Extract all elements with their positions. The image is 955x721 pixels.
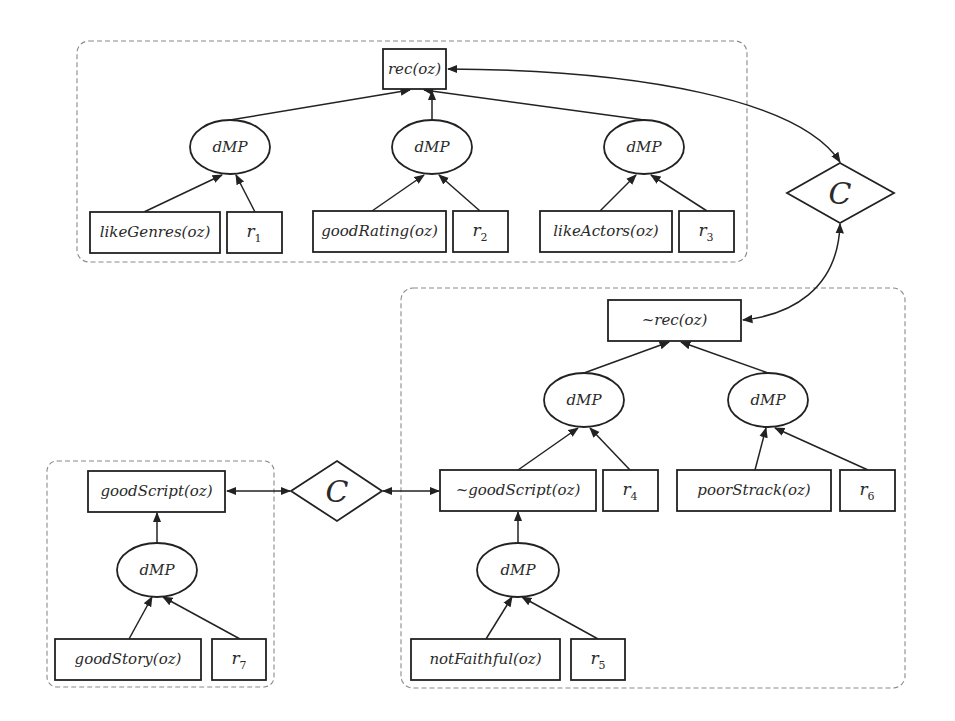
dmp-label: dMP (626, 138, 662, 156)
dmp-node[interactable]: dMP (117, 543, 197, 597)
dmp-node[interactable]: dMP (604, 120, 684, 174)
premise-node-poor-strack[interactable]: poorStrack(oz) (677, 470, 831, 511)
dmp-label: dMP (414, 138, 450, 156)
argumentation-diagram: rec(oz) dMP dMP dMP likeGenres(oz) r1 go… (0, 0, 955, 721)
node-good-script-label: goodScript(oz) (100, 482, 212, 500)
premise-label: goodRating(oz) (321, 222, 438, 240)
weight-node-r4[interactable]: r4 (603, 470, 658, 511)
dmp-node[interactable]: dMP (392, 120, 472, 174)
premise-node-like-genres[interactable]: likeGenres(oz) (90, 212, 220, 253)
dmp-label: dMP (750, 391, 786, 409)
premise-label: ~goodScript(oz) (456, 481, 581, 499)
conflict-label: C (326, 474, 349, 509)
weight-node-r2[interactable]: r2 (453, 211, 508, 252)
premise-label: poorStrack(oz) (697, 481, 811, 499)
dmp-node[interactable]: dMP (728, 373, 808, 427)
dmp-label: dMP (500, 561, 536, 579)
dmp-node[interactable]: dMP (190, 120, 270, 174)
premise-label: notFaithful(oz) (429, 650, 541, 668)
premise-node-good-rating[interactable]: goodRating(oz) (313, 211, 446, 252)
dmp-label: dMP (139, 561, 175, 579)
weight-node-r3[interactable]: r3 (679, 211, 734, 252)
premise-node-not-good-script[interactable]: ~goodScript(oz) (440, 470, 596, 511)
dmp-label: dMP (212, 138, 248, 156)
premise-node-good-story[interactable]: goodStory(oz) (55, 639, 201, 680)
weight-node-r7[interactable]: r7 (212, 639, 266, 680)
premise-label: likeActors(oz) (553, 222, 659, 240)
dmp-label: dMP (566, 391, 602, 409)
weight-node-r1[interactable]: r1 (227, 212, 282, 253)
weight-node-r5[interactable]: r5 (571, 639, 625, 680)
node-not-rec[interactable]: ~rec(oz) (608, 300, 741, 341)
conflict-node-good-script[interactable]: C (291, 461, 382, 521)
conflict-edges (227, 69, 840, 491)
node-rec-label: rec(oz) (388, 60, 441, 78)
dmp-node[interactable]: dMP (477, 543, 559, 597)
node-not-rec-label: ~rec(oz) (642, 311, 708, 329)
premise-node-not-faithful[interactable]: notFaithful(oz) (411, 639, 560, 680)
node-rec[interactable]: rec(oz) (383, 49, 446, 89)
node-good-script[interactable]: goodScript(oz) (88, 471, 225, 512)
conflict-label: C (829, 176, 852, 211)
weight-node-r6[interactable]: r6 (840, 470, 895, 511)
premise-label: likeGenres(oz) (100, 223, 211, 241)
conflict-node-rec[interactable]: C (787, 163, 894, 223)
dmp-node[interactable]: dMP (544, 373, 624, 427)
premise-label: goodStory(oz) (75, 650, 182, 668)
premise-node-like-actors[interactable]: likeActors(oz) (540, 211, 672, 252)
